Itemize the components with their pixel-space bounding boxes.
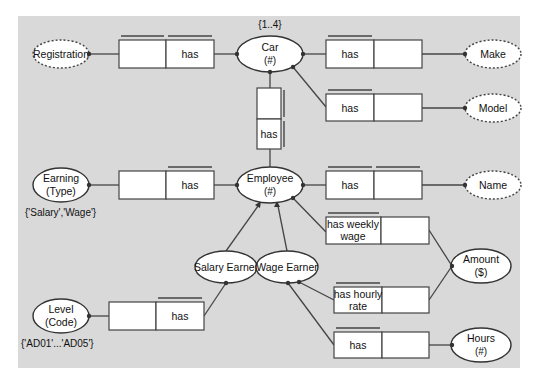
entity-refmode: (Code) — [45, 316, 77, 328]
entity-label: Employee — [247, 172, 294, 184]
entity-refmode: (#) — [264, 55, 276, 66]
fact-car-registration[interactable]: has — [119, 36, 214, 68]
value-type-label: Registration — [33, 48, 89, 60]
fact-car-make[interactable]: has — [326, 36, 422, 68]
entity-amount[interactable]: Amount ($) — [451, 249, 511, 283]
fact-reading: has — [350, 339, 367, 351]
value-type-name[interactable]: Name — [465, 171, 521, 199]
value-type-label: Model — [479, 102, 508, 114]
entity-refmode: (#) — [264, 186, 276, 197]
value-constraint: {'Salary','Wage'} — [25, 207, 97, 218]
fact-reading: has weekly — [327, 218, 380, 230]
fact-reading: has — [342, 179, 359, 191]
fact-reading: has — [172, 310, 189, 322]
fact-hourly-rate[interactable]: has hourly rate — [334, 283, 429, 313]
entity-label: Earning — [43, 172, 79, 184]
entity-label: Car — [262, 41, 279, 53]
value-constraint: {'AD01'...'AD05'} — [21, 338, 94, 349]
fact-reading: rate — [349, 300, 367, 312]
entity-label: Hours — [467, 332, 495, 344]
fact-reading: has — [182, 48, 199, 60]
entity-hours[interactable]: Hours (#) — [451, 328, 511, 362]
entity-refmode: (Type) — [46, 185, 76, 197]
entity-earning[interactable]: Earning (Type) — [33, 168, 89, 202]
value-type-label: Name — [479, 179, 507, 191]
fact-reading: has — [261, 128, 278, 140]
fact-reading: has — [342, 102, 359, 114]
entity-salary-earner[interactable]: Salary Earner — [194, 251, 259, 283]
entity-label: Amount — [463, 253, 499, 265]
orm-diagram: has has has has has has — [0, 0, 537, 390]
fact-salary-level[interactable]: has — [109, 298, 204, 330]
entity-wage-earner[interactable]: Wage Earner — [256, 251, 318, 283]
entity-label: Salary Earner — [194, 261, 259, 273]
value-type-label: Make — [480, 48, 506, 60]
fact-wage-hours[interactable]: has — [334, 328, 429, 358]
fact-employee-name[interactable]: has — [326, 167, 422, 199]
entity-label: Wage Earner — [256, 261, 318, 273]
entity-label: Level — [48, 303, 73, 315]
fact-weekly-wage[interactable]: has weekly wage — [326, 213, 429, 244]
fact-reading: has hourly — [334, 288, 383, 300]
value-type-make[interactable]: Make — [465, 40, 521, 68]
value-type-registration[interactable]: Registration — [33, 40, 89, 68]
fact-reading: wage — [339, 230, 365, 242]
cardinality-constraint: {1..4} — [258, 19, 282, 30]
fact-employee-earning[interactable]: has — [119, 167, 214, 199]
entity-level[interactable]: Level (Code) — [33, 299, 89, 333]
fact-reading: has — [342, 48, 359, 60]
fact-employee-car[interactable]: has — [257, 88, 284, 149]
value-type-model[interactable]: Model — [465, 94, 521, 122]
entity-refmode: (#) — [475, 346, 487, 357]
fact-reading: has — [182, 179, 199, 191]
entity-refmode: ($) — [475, 266, 488, 278]
fact-car-model[interactable]: has — [326, 90, 422, 121]
